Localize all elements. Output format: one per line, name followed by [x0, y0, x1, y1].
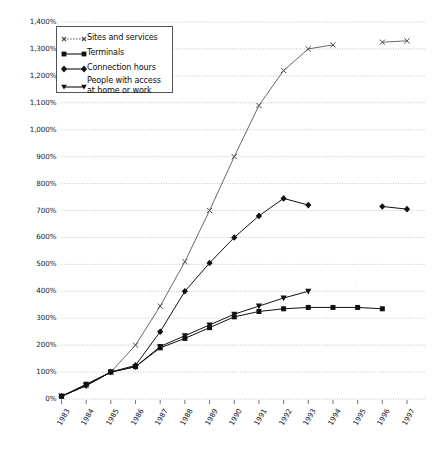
y-axis-tick-label: 400%	[36, 286, 56, 295]
series-line	[62, 291, 309, 396]
data-point	[380, 306, 385, 311]
legend-item-label: Terminals	[87, 48, 124, 57]
y-axis-tick-label: 500%	[36, 259, 56, 268]
data-point	[158, 303, 163, 308]
series-line	[382, 206, 407, 209]
legend-item-people-with-access[interactable]: People with access at home or work	[61, 75, 168, 96]
y-axis-tick-label: 1,300%	[30, 44, 57, 53]
data-point	[256, 309, 261, 314]
triangle-down-marker-icon	[61, 79, 87, 93]
legend-item-sites-and-services[interactable]: Sites and services	[61, 30, 168, 45]
legend-item-label: People with access at home or work	[87, 76, 161, 95]
square-marker-icon	[61, 46, 87, 60]
y-axis-tick-label: 1,200%	[30, 71, 57, 80]
legend-item-label: Connection hours	[87, 63, 156, 72]
data-point	[256, 103, 261, 108]
data-point	[404, 206, 410, 213]
series-line	[382, 41, 407, 42]
data-point	[281, 68, 286, 73]
y-axis-tick-label: 1,100%	[30, 98, 57, 107]
data-point	[306, 305, 311, 310]
data-point	[182, 259, 187, 264]
data-point	[305, 202, 311, 209]
y-axis-tick-label: 200%	[36, 340, 56, 349]
y-axis-tick-label: 0%	[45, 394, 56, 403]
diamond-marker-icon	[61, 61, 87, 75]
series-line	[62, 198, 309, 396]
legend-item-label: Sites and services	[87, 33, 158, 42]
series-line	[62, 45, 333, 396]
x-marker-icon	[61, 31, 87, 45]
y-axis-tick-label: 100%	[36, 367, 56, 376]
line-chart: Sites and services Terminals Connectio	[0, 0, 444, 456]
legend-item-terminals[interactable]: Terminals	[61, 45, 168, 60]
data-point	[281, 306, 286, 311]
y-axis-tick-label: 1,400%	[30, 17, 57, 26]
data-point	[330, 305, 335, 310]
y-axis-tick-label: 700%	[36, 206, 56, 215]
y-axis-tick-label: 600%	[36, 232, 56, 241]
legend-item-connection-hours[interactable]: Connection hours	[61, 60, 168, 75]
y-axis-tick-label: 1,000%	[30, 125, 57, 134]
series-line	[62, 307, 383, 396]
series-2	[58, 195, 410, 400]
data-point	[281, 195, 287, 202]
chart-legend: Sites and services Terminals Connectio	[56, 26, 173, 93]
y-axis-tick-label: 900%	[36, 152, 56, 161]
y-axis-tick-label: 300%	[36, 313, 56, 322]
data-point	[355, 305, 360, 310]
y-axis-tick-label: 800%	[36, 179, 56, 188]
series-3	[58, 289, 311, 400]
data-point	[379, 203, 385, 210]
